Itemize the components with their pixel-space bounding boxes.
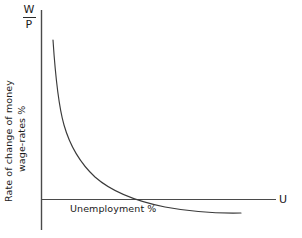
phillips-curve-figure: W P Rate of change of money wage-rates %… bbox=[0, 0, 302, 238]
y-axis-symbol-fraction: W P bbox=[20, 4, 38, 30]
x-axis-caption: Unemployment % bbox=[70, 203, 156, 214]
fraction-numerator: W bbox=[20, 4, 38, 17]
x-axis-symbol: U bbox=[279, 193, 287, 206]
y-axis-caption: Rate of change of money wage-rates % bbox=[2, 62, 36, 202]
y-axis-caption-line-1: Rate of change of money bbox=[2, 62, 15, 202]
y-axis-caption-line-2: wage-rates % bbox=[15, 62, 28, 202]
phillips-curve-line bbox=[53, 40, 241, 213]
fraction-denominator: P bbox=[20, 18, 38, 31]
